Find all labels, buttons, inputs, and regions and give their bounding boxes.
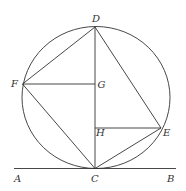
label-c: C [91, 173, 99, 184]
segment-fc [23, 84, 96, 169]
circle [22, 27, 170, 169]
label-h: H [95, 127, 105, 138]
label-g: G [98, 79, 106, 90]
segment-de [95, 27, 161, 128]
segment-ec [95, 128, 161, 169]
label-f: F [10, 78, 19, 89]
label-b: B [166, 173, 174, 184]
geometry-diagram: D F G H E C A B [0, 0, 186, 191]
label-d: D [91, 13, 100, 24]
label-a: A [13, 173, 21, 184]
label-e: E [162, 127, 171, 138]
